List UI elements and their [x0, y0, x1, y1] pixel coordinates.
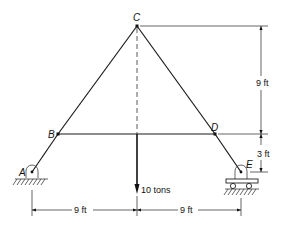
- joint-b-marker: [57, 133, 60, 136]
- node-label-e: E: [246, 159, 253, 170]
- load-arrow: 10 tons: [135, 134, 172, 195]
- load-label: 10 tons: [141, 185, 171, 195]
- dim-vertical-upper: 9 ft: [256, 78, 269, 88]
- member-cd: [137, 26, 215, 134]
- horizontal-dimension: 9 ft 9 ft: [32, 190, 241, 216]
- roller-support-e: [224, 165, 259, 195]
- member-bc: [58, 26, 137, 134]
- dim-vertical-lower: 3 ft: [257, 149, 270, 159]
- joint-c-marker: [136, 25, 139, 28]
- dim-horizontal-left: 9 ft: [74, 205, 87, 215]
- node-label-d: D: [211, 122, 218, 133]
- vertical-dimension: 9 ft 3 ft: [140, 26, 270, 172]
- truss-diagram: C B D A E: [0, 0, 287, 232]
- node-label-c: C: [133, 12, 141, 23]
- node-label-a: A: [18, 167, 26, 178]
- node-label-b: B: [48, 129, 55, 140]
- dim-horizontal-right: 9 ft: [180, 205, 193, 215]
- joints: [57, 25, 217, 136]
